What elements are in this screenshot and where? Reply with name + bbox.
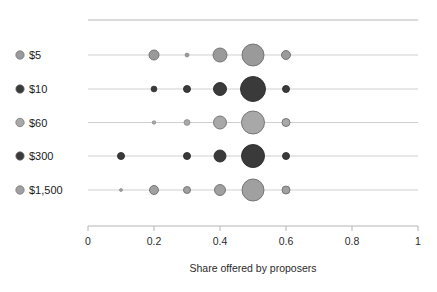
- bubble: [152, 121, 156, 125]
- legend-label-1: $5: [29, 49, 41, 61]
- legend-label-3: $60: [29, 117, 47, 129]
- x-tick-label-3: 0.6: [279, 235, 294, 247]
- bubble: [242, 44, 264, 66]
- legend-label-4: $300: [29, 150, 53, 162]
- x-tick-label-5: 1: [415, 235, 421, 247]
- bubble: [118, 153, 125, 160]
- bubble: [242, 111, 265, 134]
- legend-swatch-3[interactable]: [16, 118, 24, 126]
- bubble: [282, 119, 290, 127]
- bubble: [283, 153, 290, 160]
- x-tick-label-4: 0.8: [345, 235, 360, 247]
- bubble: [213, 48, 227, 62]
- bubble: [215, 185, 226, 196]
- x-tick-label-2: 0.4: [213, 235, 228, 247]
- x-tick-label-1: 0.2: [147, 235, 162, 247]
- x-tick-label-0: 0: [85, 235, 91, 247]
- legend-label-5: $1,500: [29, 184, 63, 196]
- legend: $5$10$60$300$1,500: [16, 49, 63, 196]
- bubble: [185, 53, 189, 57]
- bubble: [151, 86, 157, 92]
- bubble: [242, 179, 264, 201]
- bubble: [184, 86, 191, 93]
- legend-swatch-1[interactable]: [16, 51, 24, 59]
- bubble: [214, 150, 226, 162]
- legend-swatch-5[interactable]: [16, 186, 24, 194]
- legend-label-2: $10: [29, 83, 47, 95]
- bubble: [214, 83, 227, 96]
- bubble: [120, 189, 123, 192]
- bubble: [184, 153, 191, 160]
- bubble: [242, 145, 265, 168]
- bubble: [241, 77, 266, 102]
- bubble: [184, 187, 191, 194]
- chart-canvas: $5$10$60$300$1,500 00.20.40.60.81 Share …: [0, 0, 437, 292]
- x-axis-ticks: [88, 226, 418, 231]
- bubble: [282, 186, 290, 194]
- bubble: [282, 51, 291, 60]
- bubble: [184, 120, 190, 126]
- x-axis-tick-labels: 00.20.40.60.81: [85, 235, 421, 247]
- bubble: [214, 116, 227, 129]
- x-axis-title: Share offered by proposers: [189, 262, 316, 274]
- legend-swatch-4[interactable]: [16, 152, 24, 160]
- bubble-chart: $5$10$60$300$1,500 00.20.40.60.81 Share …: [0, 0, 437, 292]
- legend-swatch-2[interactable]: [16, 85, 24, 93]
- bubble: [150, 186, 159, 195]
- bubble: [283, 86, 290, 93]
- bubble: [149, 50, 159, 60]
